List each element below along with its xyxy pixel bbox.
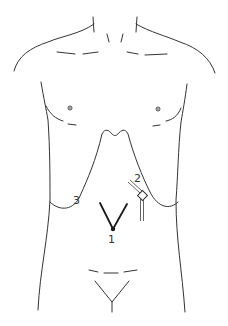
clavicle-right-dash-1 [127, 52, 138, 54]
pubic-dash-1 [89, 270, 98, 272]
throat-right-line [121, 34, 123, 42]
left-torso-side [38, 82, 50, 310]
clavicle-right-dash-2 [145, 54, 167, 55]
umbilicus-dot [111, 227, 115, 231]
right-torso-side [176, 84, 187, 312]
marker-label-1: 1 [108, 234, 115, 245]
left-underpec-dash [68, 124, 76, 125]
right-shoulder [136, 24, 215, 73]
v-incision-marker [100, 203, 127, 229]
costal-margin [50, 130, 178, 208]
pubic-dash-3 [124, 270, 137, 272]
marker-label-2: 2 [134, 173, 141, 184]
marker-label-3: 3 [73, 195, 80, 206]
right-underpec-dash [153, 125, 160, 126]
right-nipple-center [157, 108, 159, 110]
left-shoulder [14, 24, 94, 71]
throat-left-line [107, 34, 109, 42]
groin-v [95, 281, 129, 302]
left-pectoral-curve [46, 106, 63, 121]
clavicle-left-dash-1 [57, 52, 75, 54]
left-nipple-center [69, 107, 71, 109]
torso-diagram: 1 2 3 [0, 0, 228, 326]
clavicle-left-dash-2 [83, 52, 98, 54]
right-pectoral-curve [166, 108, 181, 121]
torso-outline [0, 0, 228, 326]
